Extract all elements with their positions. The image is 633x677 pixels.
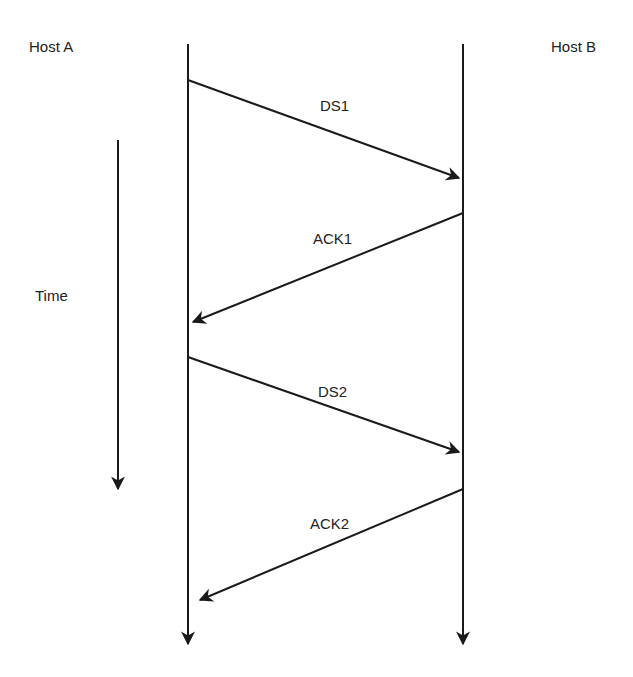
message-ack2-arrow — [200, 489, 463, 600]
message-ack1-label: ACK1 — [313, 230, 352, 247]
message-ds1-label: DS1 — [320, 97, 349, 114]
host-b-label: Host B — [551, 38, 596, 55]
sequence-diagram: Host A Host B Time DS1 ACK1 DS2 ACK2 — [0, 0, 633, 677]
message-ds2-label: DS2 — [318, 383, 347, 400]
time-label: Time — [35, 287, 68, 304]
message-ds2-arrow — [188, 357, 459, 452]
diagram-lines — [0, 0, 633, 677]
message-ack2-label: ACK2 — [310, 515, 349, 532]
host-a-label: Host A — [29, 38, 73, 55]
message-ds1-arrow — [188, 80, 459, 178]
